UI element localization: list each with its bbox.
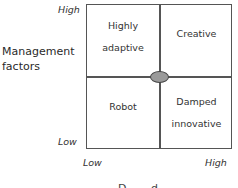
x-axis-title-clipped: D... ...d... [118,182,188,188]
quadrant-bottom-right-line1: Damped [161,91,232,113]
y-axis-title-line2: factors [2,59,74,74]
quadrant-top-left: Highly adaptive [87,15,159,59]
quadrant-top-left-line2: adaptive [87,37,159,59]
quadrant-bottom-left: Robot [87,96,159,118]
quadrant-top-right: Creative [161,23,232,45]
y-axis-title-line1: Management [2,44,74,59]
quadrant-bottom-right-line2: innovative [161,113,232,135]
quadrant-bottom-left-line1: Robot [87,96,159,118]
y-axis-title: Management factors [2,44,74,74]
center-ellipse-marker [150,71,169,83]
quadrant-top-left-line1: Highly [87,15,159,37]
x-axis-high-label: High [205,157,227,168]
quadrant-bottom-right: Damped innovative [161,91,232,135]
quadrant-top-right-line1: Creative [161,23,232,45]
y-axis-low-label: Low [58,136,77,147]
x-axis-low-label: Low [83,157,102,168]
x-axis-title: D... ...d... [118,182,188,188]
y-axis-high-label: High [58,4,80,15]
